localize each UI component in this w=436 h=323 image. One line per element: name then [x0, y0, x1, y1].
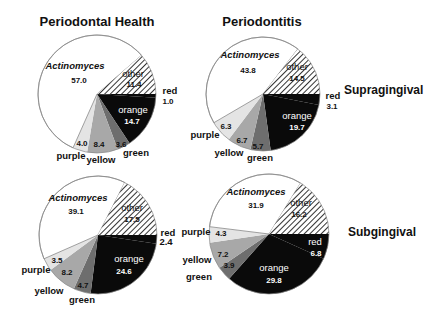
- slice-label: red: [326, 90, 341, 101]
- slice-label: 6.8: [310, 249, 322, 258]
- slice-label: 6.7: [236, 136, 248, 145]
- slice-label: green: [69, 294, 95, 305]
- slice-label: yellow: [214, 147, 244, 158]
- slice-label: Actinomyces: [44, 60, 104, 71]
- slice-label: green: [247, 152, 273, 163]
- slice-label: other: [121, 202, 143, 213]
- slice-label: 14.5: [289, 74, 305, 83]
- slice-label: red: [163, 85, 178, 96]
- row-label-supragingival: Supragingival: [344, 83, 423, 97]
- slice-label: orange: [114, 253, 144, 264]
- slice-label: yellow: [34, 285, 64, 296]
- slice-label: 2.4: [159, 236, 173, 247]
- slice-label: other: [122, 68, 144, 79]
- slice-label: 19.7: [289, 123, 305, 132]
- column-title-health: Periodontal Health: [40, 14, 155, 29]
- slice-label: 3.9: [223, 261, 235, 270]
- slice-label: green: [186, 271, 212, 282]
- slice-label: 29.8: [266, 276, 282, 285]
- row-label-subgingival: Subgingival: [348, 225, 416, 239]
- slice-label: 43.8: [240, 66, 256, 75]
- slice-label: red: [308, 236, 322, 247]
- slice-label: 4.3: [215, 229, 227, 238]
- slice-label: 3.5: [51, 256, 63, 265]
- slice-label: orange: [282, 110, 312, 121]
- column-title-periodontitis: Periodontitis: [222, 14, 301, 29]
- slice-label: yellow: [182, 254, 212, 265]
- slice-label: Actinomyces: [219, 49, 279, 60]
- pie-health-subgingival: red2.4orange24.64.7green8.2yellow3.5purp…: [21, 176, 175, 305]
- slice-label: purple: [190, 129, 219, 140]
- slice-label: yellow: [86, 154, 116, 165]
- slice-label: purple: [21, 264, 50, 275]
- slice-label: orange: [118, 104, 148, 115]
- slice-label: orange: [259, 262, 289, 273]
- slice-label: Actinomyces: [47, 192, 107, 203]
- slice-label: 3.1: [326, 102, 338, 111]
- slice-label: other: [290, 197, 312, 208]
- figure-canvas: Periodontal Health Periodontitis Supragi…: [0, 0, 436, 323]
- slice-label: 24.6: [116, 267, 132, 276]
- slice-label: 7.2: [217, 250, 229, 259]
- slice-label: 8.4: [93, 140, 105, 149]
- slice-orange: [91, 235, 157, 294]
- slice-label: purple: [56, 150, 85, 161]
- slice-label: 11.4: [126, 80, 142, 89]
- pie-chart-figure: Periodontal Health Periodontitis Supragi…: [0, 0, 436, 323]
- pie-health-supragingival: red1.0orange14.73.6green8.4yellow4.0purp…: [38, 35, 178, 165]
- slice-label: 17.5: [124, 215, 140, 224]
- slice-label: other: [286, 61, 308, 72]
- slice-label: purple: [181, 226, 210, 237]
- slice-label: 39.1: [68, 207, 84, 216]
- slice-label: 57.0: [71, 76, 87, 85]
- pie-periodontitis-supragingival: red3.1orange19.75.7green6.7yellow6.3purp…: [190, 37, 340, 163]
- slice-label: 1.0: [162, 97, 174, 106]
- slice-label: 4.0: [76, 139, 88, 148]
- slice-label: 8.2: [61, 268, 73, 277]
- slice-label: 16.2: [291, 210, 307, 219]
- slice-label: 14.7: [124, 117, 140, 126]
- slice-label: green: [123, 147, 149, 158]
- pie-periodontitis-subgingival: red6.8orange29.83.9green7.2yellow4.3purp…: [181, 174, 329, 294]
- slice-label: Actinomyces: [225, 186, 285, 197]
- slice-label: 6.3: [220, 122, 232, 131]
- slice-label: 4.7: [77, 281, 89, 290]
- slice-label: 31.9: [248, 201, 264, 210]
- slice-label: 5.7: [252, 142, 264, 151]
